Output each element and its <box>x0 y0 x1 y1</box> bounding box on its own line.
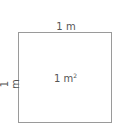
area-exponent: 2 <box>73 72 77 79</box>
area-value: 1 m <box>54 73 73 84</box>
area-label: 1 m2 <box>54 70 77 84</box>
left-side-length-label: 1 m <box>0 75 21 93</box>
top-side-length-label: 1 m <box>0 21 122 32</box>
